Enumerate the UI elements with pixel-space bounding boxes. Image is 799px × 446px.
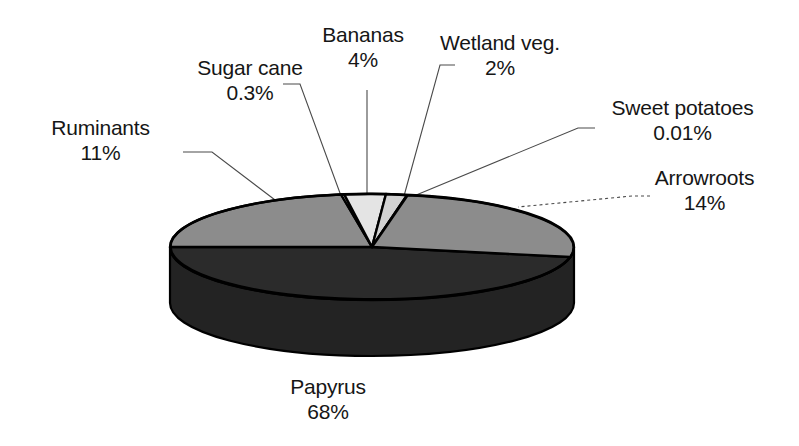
slice-top-arrowroots bbox=[372, 195, 574, 257]
leader-line-ruminants bbox=[183, 152, 279, 203]
slice-label-papyrus: Papyrus 68% bbox=[228, 374, 428, 424]
slice-label-ruminants: Ruminants 11% bbox=[8, 115, 193, 165]
leader-line-sweet-potatoes bbox=[409, 128, 595, 198]
slice-label-papyrus-name: Papyrus bbox=[228, 374, 428, 399]
slice-label-arrowroots-percent: 14% bbox=[612, 190, 797, 215]
slice-label-ruminants-percent: 11% bbox=[8, 140, 193, 165]
slice-top-ruminants bbox=[170, 195, 372, 248]
slice-label-wetland-veg-name: Wetland veg. bbox=[400, 30, 600, 55]
slice-label-wetland-veg-percent: 2% bbox=[400, 55, 600, 80]
slice-label-sweet-potatoes: Sweet potatoes 0.01% bbox=[570, 95, 795, 145]
slice-label-arrowroots-name: Arrowroots bbox=[612, 165, 797, 190]
slice-label-sweet-potatoes-name: Sweet potatoes bbox=[570, 95, 795, 120]
slice-label-ruminants-name: Ruminants bbox=[8, 115, 193, 140]
pie-chart: Sugar cane 0.3% Bananas 4% Wetland veg. … bbox=[0, 0, 799, 446]
slice-label-sugar-cane-percent: 0.3% bbox=[150, 80, 350, 105]
slice-label-wetland-veg: Wetland veg. 2% bbox=[400, 30, 600, 80]
slice-label-arrowroots: Arrowroots 14% bbox=[612, 165, 797, 215]
leader-line-wetland-veg bbox=[404, 65, 455, 196]
slice-label-papyrus-percent: 68% bbox=[228, 399, 428, 424]
slice-label-sweet-potatoes-percent: 0.01% bbox=[570, 120, 795, 145]
